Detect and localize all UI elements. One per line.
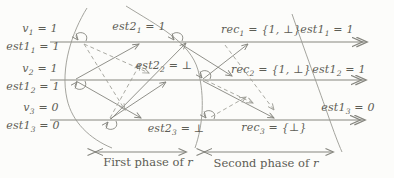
label-p2-initial-value: v2 = 1 bbox=[22, 63, 57, 77]
label-p3-initial-value: v3 = 0 bbox=[23, 102, 58, 116]
label-p2-initial-est1: est12 = 1 bbox=[6, 81, 59, 95]
label-p2-est2: est22 = ⊥ bbox=[136, 60, 193, 74]
arrow-p2-to-p3-phase1 bbox=[76, 81, 141, 118]
loop-p1-phase1 bbox=[76, 33, 87, 41]
consensus-round-diagram: v1 = 1 est11 = 1 est21 = 1 rec1 = {1, ⊥}… bbox=[0, 0, 394, 178]
loop-p3-phase2 bbox=[204, 111, 215, 119]
label-p1-initial-est1: est11 = 1 bbox=[6, 41, 59, 55]
self-delivery-loops bbox=[75, 33, 215, 130]
round-start-arc bbox=[65, 8, 112, 148]
arrow-p3-to-p1-late bbox=[111, 43, 186, 119]
label-p3-est2: est23 = ⊥ bbox=[148, 123, 205, 137]
loop-p2-phase2 bbox=[200, 71, 211, 79]
caption-first-phase: First phase of r bbox=[103, 157, 193, 169]
loop-p3-phase1 bbox=[106, 121, 117, 129]
dashed-p1-to-p3-phase1 bbox=[84, 44, 125, 110]
label-p1-initial-value: v1 = 1 bbox=[22, 23, 57, 37]
label-p2-rec: rec2 = {1, ⊥} bbox=[231, 64, 311, 78]
label-p3-rec: rec3 = {⊥} bbox=[241, 122, 306, 136]
message-arrows-dashed bbox=[84, 44, 274, 118]
label-p2-next-est1: est12 = 1 bbox=[312, 64, 365, 78]
arrow-p2-to-p1-phase1 bbox=[76, 44, 139, 79]
label-p1-est2: est21 = 1 bbox=[112, 21, 165, 35]
label-p3-next-est1: est13 = 0 bbox=[321, 102, 374, 116]
message-arrows-solid bbox=[76, 43, 274, 119]
arrow-p3-to-p2-phase1 bbox=[110, 82, 166, 119]
caption-second-phase: Second phase of r bbox=[214, 158, 319, 170]
label-p1-rec: rec1 = {1, ⊥} bbox=[221, 24, 301, 38]
label-p1-next-est1: est11 = 1 bbox=[300, 24, 353, 38]
dashed-p2-to-p3-phase2 bbox=[205, 80, 253, 103]
label-p3-initial-est1: est13 = 0 bbox=[6, 120, 59, 134]
dashed-p3-to-p2-phase2 bbox=[211, 97, 246, 117]
